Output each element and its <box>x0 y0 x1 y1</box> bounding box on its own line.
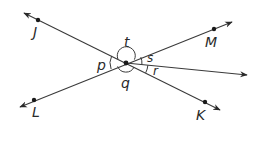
angle-arc-r <box>146 65 148 73</box>
point-l-dot <box>32 98 36 102</box>
angle-diagram: J M L K t p q s r <box>0 0 267 142</box>
point-m-dot <box>212 27 216 31</box>
point-j-dot <box>36 18 40 22</box>
label-k: K <box>196 107 207 123</box>
center-point <box>124 61 129 66</box>
angle-label-t: t <box>124 34 130 50</box>
angle-label-q: q <box>121 75 130 91</box>
label-m: M <box>205 34 217 50</box>
angle-label-p: p <box>96 57 106 73</box>
angle-label-s: s <box>147 51 153 65</box>
angle-arc-p <box>110 56 112 69</box>
line-jk <box>24 13 220 110</box>
label-j: J <box>30 24 37 40</box>
label-l: L <box>32 104 40 120</box>
ray-arrow <box>126 63 247 75</box>
point-k-dot <box>203 100 207 104</box>
diagram-canvas: J M L K t p q s r <box>0 0 267 142</box>
